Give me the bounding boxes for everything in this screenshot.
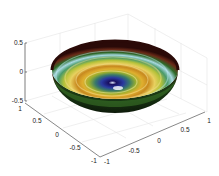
svg-text:-1: -1 [104, 158, 110, 165]
z-axis-ticks: 0.5 0 -0.5 [12, 39, 24, 104]
svg-text:-1: -1 [91, 157, 97, 164]
svg-text:-0.5: -0.5 [128, 147, 140, 154]
svg-text:1: 1 [207, 117, 211, 124]
svg-text:0.5: 0.5 [180, 126, 189, 133]
svg-text:-0.5: -0.5 [12, 97, 24, 104]
svg-text:0.5: 0.5 [14, 39, 23, 46]
svg-text:1: 1 [18, 105, 22, 112]
svg-text:0: 0 [157, 137, 161, 144]
svg-text:-0.5: -0.5 [69, 144, 81, 151]
svg-text:0.5: 0.5 [32, 117, 41, 124]
x-axis-ticks: -1 -0.5 0 0.5 1 [104, 117, 211, 165]
surface [52, 41, 178, 113]
svg-text:0: 0 [19, 68, 23, 75]
svg-text:0: 0 [55, 131, 59, 138]
y-axis-ticks: 1 0.5 0 -0.5 -1 [18, 105, 97, 164]
surface-plot-3d: 0.5 0 -0.5 1 0.5 0 -0.5 -1 -1 -0.5 0 0.5… [0, 0, 219, 176]
